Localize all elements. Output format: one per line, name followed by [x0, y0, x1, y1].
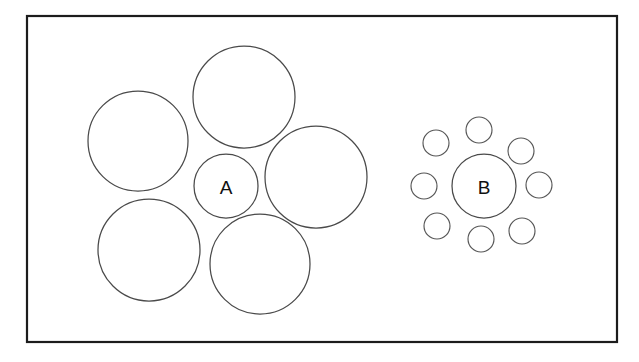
ebbinghaus-illusion-figure: A B [0, 0, 639, 362]
inducer-circle [526, 172, 552, 198]
group-b: B [411, 117, 552, 252]
target-label-b: B [478, 177, 491, 198]
inducer-circle [98, 199, 200, 301]
inducer-circle [508, 138, 534, 164]
inducer-circle [423, 130, 449, 156]
inducer-circle [265, 126, 367, 228]
inducer-circle [88, 91, 188, 191]
figure-canvas: A B [0, 0, 639, 362]
inducer-circle [468, 226, 494, 252]
inducer-circle [466, 117, 492, 143]
group-a: A [88, 46, 367, 314]
target-label-a: A [220, 177, 233, 198]
inducer-circle [210, 214, 310, 314]
inducer-circle [424, 213, 450, 239]
inducer-circle [411, 173, 437, 199]
inducer-circle [193, 46, 295, 148]
inducer-circle [509, 218, 535, 244]
